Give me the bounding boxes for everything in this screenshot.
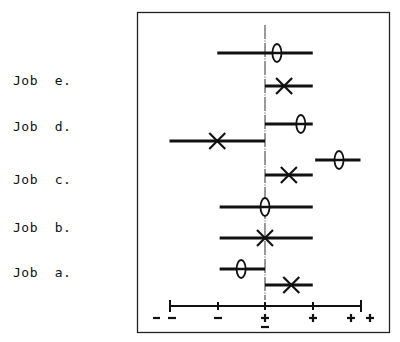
chart-plot	[0, 0, 400, 342]
x-axis-tick-labels	[153, 314, 374, 327]
plot-frame	[138, 13, 390, 333]
x-axis	[170, 300, 361, 312]
